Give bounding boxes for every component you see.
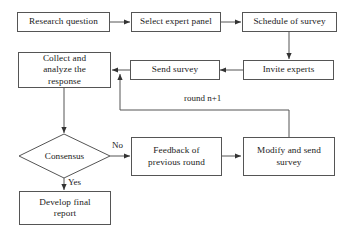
node-label: Consensus xyxy=(45,151,84,162)
node-label: Collect and analyze the response xyxy=(19,53,110,88)
node-send-survey[interactable]: Send survey xyxy=(130,60,220,80)
edge-modify-to-collect-round xyxy=(120,74,289,137)
node-label: Select expert panel xyxy=(132,16,220,28)
node-consensus[interactable]: Consensus xyxy=(19,134,110,178)
node-invite-experts[interactable]: Invite experts xyxy=(243,60,334,80)
node-label: Research question xyxy=(18,16,109,28)
node-schedule-of-survey[interactable]: Schedule of survey xyxy=(242,12,337,32)
node-label: Invite experts xyxy=(244,64,333,76)
node-label: Send survey xyxy=(131,64,219,76)
node-modify-and-send-survey[interactable]: Modify and send survey xyxy=(243,137,335,176)
node-select-expert-panel[interactable]: Select expert panel xyxy=(131,12,221,32)
edge-label-yes: Yes xyxy=(68,177,81,187)
edge-label-round-next: round n+1 xyxy=(184,93,221,103)
flowchart-canvas: Research question Select expert panel Sc… xyxy=(0,0,350,240)
node-label: Develop final report xyxy=(20,197,110,220)
node-collect-and-analyze[interactable]: Collect and analyze the response xyxy=(18,52,111,88)
edge-label-no: No xyxy=(112,140,123,150)
node-research-question[interactable]: Research question xyxy=(17,12,110,32)
node-label: Modify and send survey xyxy=(244,145,334,168)
node-label: Feedback of previous round xyxy=(132,145,221,168)
node-feedback-previous-round[interactable]: Feedback of previous round xyxy=(131,137,222,176)
node-label: Schedule of survey xyxy=(243,16,336,28)
node-develop-final-report[interactable]: Develop final report xyxy=(19,191,111,225)
